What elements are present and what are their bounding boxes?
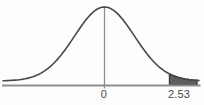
- x-tick-label-2-53: 2.53: [168, 88, 190, 101]
- x-tick-label-zero: 0: [101, 88, 107, 101]
- normal-curve-figure: 0 2.53: [0, 0, 204, 105]
- bell-curve-path: [3, 7, 199, 81]
